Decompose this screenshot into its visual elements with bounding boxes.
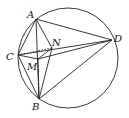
segment-cd [18, 40, 112, 55]
label-point-c: C [6, 51, 14, 62]
label-point-n: N [51, 37, 62, 48]
segment-ac [18, 19, 36, 55]
geometry-diagram: ABCDMN [0, 0, 129, 118]
segment-bm [38, 59, 39, 99]
label-point-b: B [31, 101, 39, 112]
label-point-m: M [26, 61, 38, 72]
segment-ad [36, 19, 112, 40]
segment-cm [18, 55, 38, 59]
segments [18, 19, 112, 99]
label-point-a: A [26, 9, 34, 20]
diagram-canvas: ABCDMN [0, 0, 129, 118]
segment-bd [39, 40, 112, 99]
segment-an [36, 19, 52, 48]
label-point-d: D [113, 33, 122, 44]
